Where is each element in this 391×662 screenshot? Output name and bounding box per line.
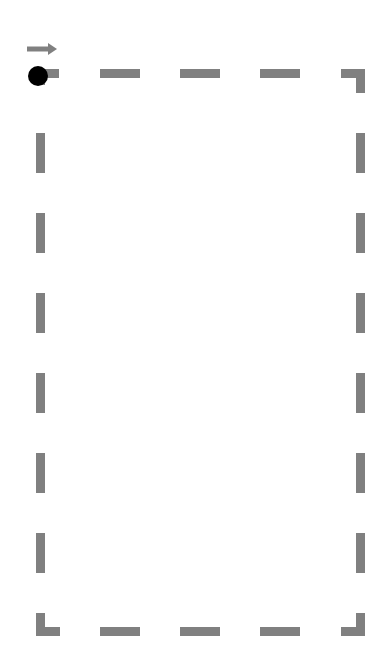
dash-top [260,69,300,78]
corner-top-right [356,69,365,93]
dash-left [36,453,45,493]
corner-bottom-left [36,627,60,636]
dash-right [356,213,365,253]
dash-right [356,453,365,493]
dash-bottom [180,627,220,636]
dash-left [36,133,45,173]
dash-right [356,533,365,573]
dash-bottom [100,627,140,636]
arrow-right-icon [27,43,57,55]
dash-left [36,213,45,253]
dash-top [100,69,140,78]
dashed-rectangle-path [36,69,365,636]
dashed-path-canvas [0,0,391,662]
start-marker-dot [28,66,48,86]
dash-left [36,373,45,413]
dash-right [356,133,365,173]
dash-bottom [260,627,300,636]
dash-right [356,293,365,333]
dash-left [36,293,45,333]
arrow-head [48,43,57,55]
dash-top [180,69,220,78]
dash-left [36,533,45,573]
dash-right [356,373,365,413]
corner-bottom-right [356,613,365,636]
